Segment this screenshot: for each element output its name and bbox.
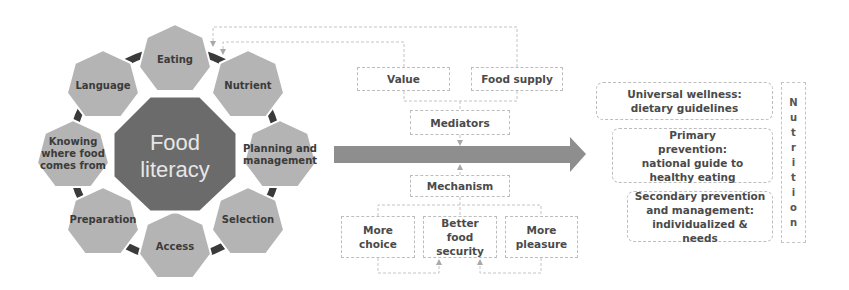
component-eating: Eating (140, 50, 210, 70)
nutrition-letter: r (791, 140, 796, 155)
more-choice-box: More choice (341, 216, 415, 258)
nutrition-letter: t (791, 170, 796, 185)
nutrition-letter: o (790, 200, 797, 215)
component-planning: Planning and management (246, 135, 314, 175)
food-literacy-title-line2: literacy (140, 156, 210, 183)
food-literacy-title-line1: Food (150, 129, 200, 156)
nutrition-letter: i (792, 155, 795, 170)
component-language: Language (68, 76, 138, 96)
nutrition-letter: u (790, 110, 797, 125)
nutrition-letter: t (791, 125, 796, 140)
component-nutrient: Nutrient (213, 76, 283, 96)
food-supply-box: Food supply (471, 67, 563, 91)
universal-wellness-box: Universal wellness: dietary guidelines (596, 82, 773, 120)
food-literacy-title: Food literacy (113, 118, 237, 193)
better-food-security-box: Better food security (423, 216, 497, 258)
nutrition-letter: N (789, 95, 797, 110)
value-box: Value (357, 67, 450, 91)
primary-prevention-box: Primary prevention: national guide to he… (612, 128, 773, 183)
more-pleasure-box: More pleasure (505, 216, 578, 258)
secondary-prevention-box: Secondary prevention and management: ind… (627, 191, 773, 242)
component-knowing: Knowing where food comes from (40, 128, 106, 180)
mediators-box: Mediators (410, 110, 510, 135)
component-access: Access (140, 237, 210, 257)
mechanism-box: Mechanism (410, 175, 510, 197)
nutrition-letter: n (790, 215, 797, 230)
component-preparation: Preparation (66, 210, 140, 230)
nutrition-side-label: N u t r i t i o n (781, 82, 806, 243)
component-selection: Selection (213, 210, 283, 230)
nutrition-letter: i (792, 185, 795, 200)
